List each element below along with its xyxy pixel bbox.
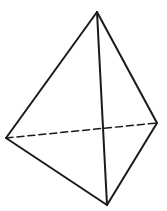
edge-right-bottom: [107, 123, 157, 205]
edge-top-bottom: [97, 12, 107, 205]
tetrahedron-diagram: [0, 0, 167, 211]
edge-top-right: [97, 12, 157, 123]
edge-top-left: [6, 12, 97, 138]
edge-left-right-hidden: [6, 123, 157, 138]
edge-left-bottom: [6, 138, 107, 205]
